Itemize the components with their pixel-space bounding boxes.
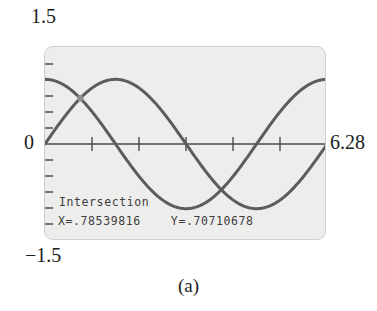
y-min-label: −1.5 (25, 245, 61, 265)
y-max-label: 1.5 (31, 6, 56, 26)
scan-bleed-artifact (150, 243, 350, 269)
intersection-readout-title: Intersection (59, 197, 149, 209)
plot-area (45, 47, 326, 240)
intersection-cursor-icon (77, 95, 83, 101)
calculator-screen: Intersection X=.78539816 Y=.70710678 (44, 46, 326, 240)
y-zero-label: 0 (24, 132, 34, 152)
intersection-readout-values: X=.78539816 Y=.70710678 (58, 216, 254, 228)
x-max-label: 6.28 (330, 132, 365, 152)
calculator-figure: 1.5 0 6.28 −1.5 (0, 0, 377, 311)
figure-caption: (a) (0, 275, 377, 297)
